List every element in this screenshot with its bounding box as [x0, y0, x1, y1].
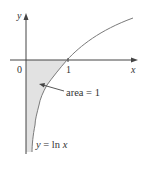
area-label: area = 1: [66, 87, 100, 98]
origin-tick-label: 0: [17, 64, 22, 75]
y-axis-arrow-icon: [24, 13, 29, 20]
function-label-x: x: [62, 139, 68, 150]
x-axis-arrow-icon: [131, 58, 138, 63]
y-axis-label: y: [16, 10, 22, 21]
one-tick-label: 1: [66, 64, 71, 75]
area-pointer-line: [43, 85, 64, 91]
function-label-eq: = ln: [41, 139, 63, 150]
ln-area-diagram: y x 0 1 area = 1 y = ln x: [0, 0, 151, 172]
x-axis-label: x: [130, 64, 136, 75]
ln-curve: [32, 18, 133, 152]
function-label: y = ln x: [35, 139, 68, 150]
